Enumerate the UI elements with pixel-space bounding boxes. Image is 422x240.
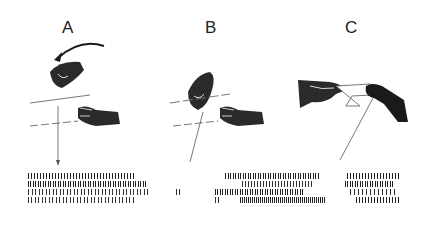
raster-c-row-3 bbox=[350, 189, 398, 195]
panel-c-scene bbox=[298, 80, 408, 160]
raster-b-row-4b bbox=[240, 197, 325, 203]
experimenter-hand-b bbox=[188, 72, 214, 110]
raster-b-row-3b bbox=[215, 189, 303, 195]
panel-b-scene bbox=[170, 72, 264, 162]
rotation-arrow-icon bbox=[58, 44, 104, 58]
raster-b-row-4a bbox=[215, 197, 221, 203]
raster-c-row-1 bbox=[347, 173, 399, 179]
raster-a-row-4 bbox=[28, 197, 136, 203]
raster-c-row-4 bbox=[356, 197, 400, 203]
raster-a-row-3 bbox=[28, 189, 150, 195]
raster-c-row-2 bbox=[345, 181, 395, 187]
right-hand-c bbox=[366, 84, 408, 122]
raster-a-row-1 bbox=[28, 173, 136, 179]
raster-b-row-2 bbox=[242, 181, 312, 187]
raster-b-row-1 bbox=[225, 173, 320, 179]
experimenter-hand-a bbox=[50, 62, 84, 88]
raster-a-row-2 bbox=[28, 181, 148, 187]
left-hand-c bbox=[298, 80, 346, 108]
raster-b-row-3a bbox=[176, 189, 182, 195]
panel-a-scene bbox=[30, 44, 120, 166]
